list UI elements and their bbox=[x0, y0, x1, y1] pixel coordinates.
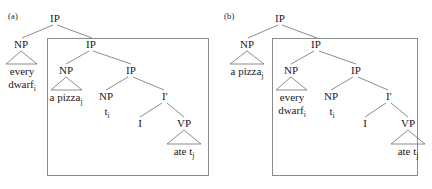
panel-b-leaf-inner-np-line2: dwarf bbox=[278, 104, 304, 116]
panel-a-leaf-outer-np-sub: i bbox=[34, 84, 36, 93]
panel-b-leaf-inner-np-line1: every bbox=[280, 91, 304, 103]
panel-b-node-inner-np: NP bbox=[284, 64, 298, 76]
panel-a-node-inner-np: NP bbox=[59, 64, 73, 76]
panel-b-leaf-outer-np-line1: a pizza bbox=[231, 65, 262, 77]
panel-a-leaf-inner-np-sub: j bbox=[80, 97, 82, 106]
panel-a-leaf-vp: ate tj bbox=[174, 145, 195, 160]
panel-a-node-inner-ip: IP bbox=[126, 64, 136, 76]
panel-a-leaf-outer-np: everydwarfi bbox=[8, 65, 36, 92]
panel-b-node-vp: VP bbox=[401, 117, 415, 129]
panel-b-leaf-inner-np-sub: i bbox=[304, 110, 306, 119]
panel-b-leaf-inner-np: everydwarfi bbox=[278, 91, 306, 118]
panel-a-leaf-outer-np-line1: every bbox=[10, 65, 34, 77]
panel-b-node-trace-np: NP bbox=[324, 90, 338, 102]
panel-b-leaf-vp-text: ate t bbox=[398, 145, 417, 157]
panel-b: (b) bbox=[216, 0, 432, 189]
panel-b-leaf-trace: ti bbox=[329, 105, 334, 120]
panel-a-node-boxed-ip: IP bbox=[86, 38, 96, 50]
panel-b-node-outer-np: NP bbox=[240, 38, 254, 50]
panel-b-node-root-ip: IP bbox=[275, 12, 285, 24]
panel-b-node-inner-ip: IP bbox=[351, 64, 361, 76]
panel-b-leaf-outer-np-sub: j bbox=[261, 71, 263, 80]
panel-a-leaf-trace: ti bbox=[104, 105, 109, 120]
panel-a-node-i-bar: I′ bbox=[162, 90, 168, 102]
panel-a-node-trace-np: NP bbox=[99, 90, 113, 102]
panel-b-leaf-outer-np: a pizzaj bbox=[231, 65, 264, 80]
panel-a-leaf-outer-np-line2: dwarf bbox=[8, 78, 34, 90]
panel-a-node-vp: VP bbox=[177, 117, 191, 129]
panel-a-node-outer-np: NP bbox=[14, 38, 28, 50]
panel-b-node-boxed-ip: IP bbox=[311, 38, 321, 50]
panel-a-node-i-head: I bbox=[138, 117, 142, 129]
panel-a: (a) bbox=[0, 0, 216, 189]
panel-a-leaf-vp-sub: j bbox=[192, 151, 194, 160]
panel-a-leaf-trace-sub: i bbox=[107, 111, 109, 120]
panel-a-leaf-inner-np: a pizzaj bbox=[50, 91, 83, 106]
figure-container: (a) bbox=[0, 0, 432, 189]
panel-b-node-i-bar: I′ bbox=[386, 90, 392, 102]
panel-a-leaf-vp-text: ate t bbox=[174, 145, 193, 157]
panel-b-leaf-trace-sub: i bbox=[332, 111, 334, 120]
panel-b-leaf-vp-sub: j bbox=[416, 151, 418, 160]
panel-a-node-root-ip: IP bbox=[50, 12, 60, 24]
panel-b-node-i-head: I bbox=[363, 117, 367, 129]
panel-a-leaf-inner-np-text: a pizza bbox=[50, 91, 81, 103]
panel-b-leaf-vp: ate tj bbox=[398, 145, 419, 160]
